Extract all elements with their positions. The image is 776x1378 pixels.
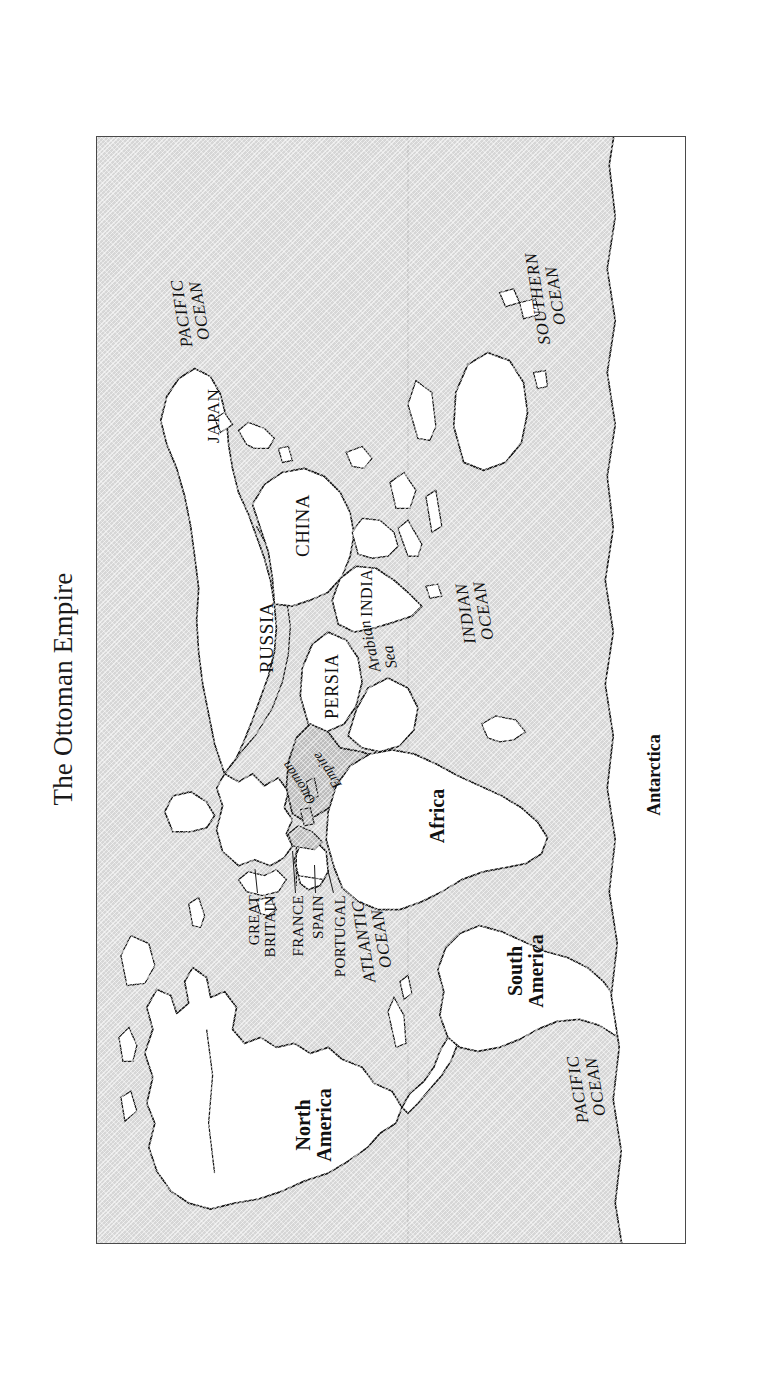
land-europe [217, 774, 293, 866]
page-title: The Ottoman Empire [48, 114, 79, 1264]
map-frame: .land { fill:#ffffff; stroke:#1a1a1a; st… [96, 136, 686, 1244]
island-tasmania [534, 371, 548, 389]
land-india [332, 566, 422, 632]
island-borneo [390, 472, 416, 508]
world-map-graphic: .land { fill:#ffffff; stroke:#1a1a1a; st… [97, 137, 685, 1243]
page-canvas: The Ottoman Empire .land { fill:#ffffff;… [0, 0, 776, 1378]
rotated-figure: The Ottoman Empire .land { fill:#ffffff;… [48, 114, 692, 1264]
land-central-america [402, 1037, 458, 1113]
island-greenland [121, 936, 155, 986]
island-ireland [256, 898, 276, 916]
island-sri-lanka [426, 584, 442, 598]
island-hispaniola [400, 975, 412, 999]
land-antarctica [605, 137, 685, 1243]
land-scandinavia [165, 792, 215, 832]
island-iceland [189, 898, 205, 928]
land-australia [454, 353, 528, 471]
island-great-britain [239, 870, 287, 896]
land-indochina [352, 518, 398, 558]
island-java [426, 490, 442, 532]
island-philippines [346, 446, 372, 468]
island-new-guinea [408, 381, 436, 441]
island-arctic-b [121, 1091, 137, 1121]
island-new-zealand-n [500, 289, 520, 307]
land-persia [300, 632, 362, 732]
island-arctic-a [119, 1027, 137, 1061]
island-sumatra [398, 520, 422, 556]
island-cuba [388, 997, 406, 1047]
island-japan-south [278, 446, 292, 462]
island-madagascar [482, 716, 526, 742]
island-new-zealand-s [520, 299, 540, 319]
island-japan-main [239, 422, 275, 448]
land-italy [288, 826, 322, 850]
land-north-america [145, 967, 402, 1209]
land-africa [326, 750, 547, 910]
